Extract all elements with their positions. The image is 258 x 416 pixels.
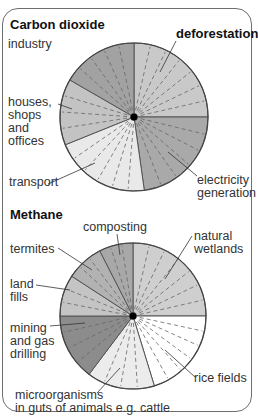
co2-heading: Carbon dioxide xyxy=(10,17,105,32)
label-termites: termites xyxy=(10,243,54,256)
label-natural-wetlands: natural wetlands xyxy=(194,230,243,256)
leader-line xyxy=(36,285,70,290)
label-industry: industry xyxy=(8,38,52,51)
label-transport: transport xyxy=(9,176,58,189)
label-composting: composting xyxy=(83,221,147,234)
methane-heading: Methane xyxy=(10,207,63,222)
label-microorganisms: microorganisms in guts of animals e.g. c… xyxy=(15,389,170,415)
pie-slice xyxy=(134,43,208,117)
label-houses-shops-offices: houses, shops and offices xyxy=(8,96,52,148)
pie-center-dot xyxy=(131,114,138,121)
label-land-fills: land fills xyxy=(10,278,34,304)
label-deforestation: deforestation xyxy=(176,27,258,40)
pie-center-dot xyxy=(130,313,137,320)
label-mining-gas-drilling: mining and gas drilling xyxy=(10,322,54,361)
label-rice-fields: rice fields xyxy=(194,372,247,385)
label-electricity-generation: electricity generation xyxy=(197,174,256,200)
